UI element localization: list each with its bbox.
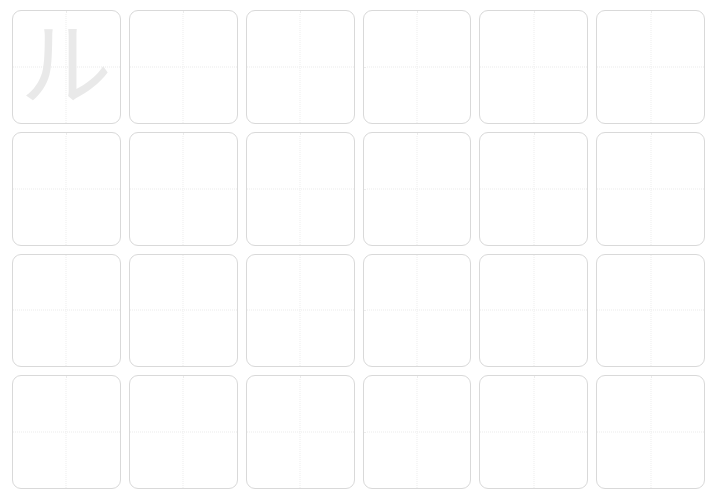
vertical-guide-line	[183, 11, 184, 123]
practice-cell[interactable]	[129, 254, 238, 368]
vertical-guide-line	[416, 11, 417, 123]
practice-cell[interactable]	[596, 132, 705, 246]
practice-cell[interactable]	[363, 375, 472, 489]
vertical-guide-line	[66, 255, 67, 367]
character-practice-worksheet: ル	[0, 0, 717, 502]
vertical-guide-line	[300, 11, 301, 123]
vertical-guide-line	[650, 133, 651, 245]
horizontal-guide-line	[130, 432, 237, 433]
vertical-guide-line	[183, 255, 184, 367]
vertical-guide-line	[533, 133, 534, 245]
practice-cell[interactable]	[12, 375, 121, 489]
horizontal-guide-line	[480, 432, 587, 433]
practice-cell[interactable]	[246, 375, 355, 489]
horizontal-guide-line	[247, 66, 354, 67]
practice-cell[interactable]	[363, 132, 472, 246]
vertical-guide-line	[416, 376, 417, 488]
practice-cell[interactable]	[479, 375, 588, 489]
vertical-guide-line	[300, 255, 301, 367]
practice-cell[interactable]	[12, 254, 121, 368]
practice-cell[interactable]	[479, 10, 588, 124]
horizontal-guide-line	[597, 188, 704, 189]
vertical-guide-line	[300, 133, 301, 245]
practice-cell[interactable]	[246, 132, 355, 246]
vertical-guide-line	[416, 255, 417, 367]
practice-cell[interactable]	[246, 10, 355, 124]
practice-cell[interactable]	[129, 132, 238, 246]
horizontal-guide-line	[247, 188, 354, 189]
vertical-guide-line	[300, 376, 301, 488]
horizontal-guide-line	[597, 66, 704, 67]
horizontal-guide-line	[597, 310, 704, 311]
practice-cell[interactable]	[129, 375, 238, 489]
horizontal-guide-line	[13, 310, 120, 311]
practice-cell[interactable]	[596, 254, 705, 368]
horizontal-guide-line	[480, 188, 587, 189]
vertical-guide-line	[650, 255, 651, 367]
horizontal-guide-line	[247, 310, 354, 311]
practice-cell[interactable]	[129, 10, 238, 124]
practice-cell[interactable]	[479, 254, 588, 368]
horizontal-guide-line	[480, 66, 587, 67]
practice-cell[interactable]	[596, 375, 705, 489]
practice-cell[interactable]: ル	[12, 10, 121, 124]
practice-cell[interactable]	[12, 132, 121, 246]
horizontal-guide-line	[130, 310, 237, 311]
horizontal-guide-line	[247, 432, 354, 433]
vertical-guide-line	[533, 376, 534, 488]
practice-cell[interactable]	[363, 254, 472, 368]
horizontal-guide-line	[13, 432, 120, 433]
practice-cell[interactable]	[479, 132, 588, 246]
horizontal-guide-line	[364, 66, 471, 67]
horizontal-guide-line	[130, 188, 237, 189]
practice-grid: ル	[12, 10, 705, 489]
vertical-guide-line	[183, 133, 184, 245]
tracing-character: ル	[13, 11, 120, 123]
vertical-guide-line	[66, 376, 67, 488]
vertical-guide-line	[533, 11, 534, 123]
vertical-guide-line	[183, 376, 184, 488]
horizontal-guide-line	[364, 432, 471, 433]
horizontal-guide-line	[130, 66, 237, 67]
practice-cell[interactable]	[596, 10, 705, 124]
vertical-guide-line	[650, 376, 651, 488]
vertical-guide-line	[416, 133, 417, 245]
horizontal-guide-line	[364, 188, 471, 189]
vertical-guide-line	[66, 133, 67, 245]
horizontal-guide-line	[13, 188, 120, 189]
practice-cell[interactable]	[363, 10, 472, 124]
vertical-guide-line	[533, 255, 534, 367]
vertical-guide-line	[650, 11, 651, 123]
horizontal-guide-line	[364, 310, 471, 311]
horizontal-guide-line	[597, 432, 704, 433]
practice-cell[interactable]	[246, 254, 355, 368]
horizontal-guide-line	[480, 310, 587, 311]
